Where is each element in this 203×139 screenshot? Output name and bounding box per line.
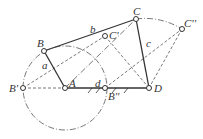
joint-A (63, 86, 68, 91)
joints (21, 17, 185, 91)
label-D: D (154, 83, 162, 94)
joint-D (147, 86, 152, 91)
joint-C (134, 17, 139, 22)
link-c (136, 19, 149, 88)
label-C1: C' (109, 30, 119, 41)
label-C2: C'' (184, 18, 196, 29)
label-a: a (42, 60, 48, 71)
label-d: d (95, 78, 101, 89)
label-A: A (69, 78, 76, 89)
diagram-canvas (0, 0, 203, 139)
joint-B2 (103, 86, 108, 91)
label-B1: B' (9, 83, 18, 94)
joint-B (42, 49, 47, 54)
rocker-arc (136, 18, 182, 29)
label-C: C (133, 6, 140, 17)
dashed-C1D (105, 36, 149, 88)
dashed-C2D (149, 29, 182, 88)
joint-C1 (103, 34, 108, 39)
label-B: B (37, 38, 44, 49)
label-B2: B'' (108, 91, 119, 102)
label-b: b (90, 24, 96, 35)
label-c: c (146, 38, 151, 49)
linkage-diagram: A B B' B'' C C' C'' D a b c d (0, 0, 203, 139)
joint-B1 (21, 86, 26, 91)
